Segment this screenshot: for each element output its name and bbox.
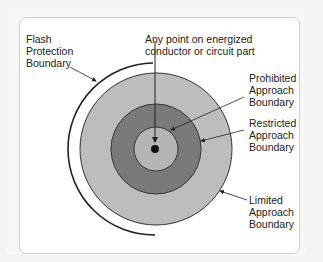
flash-leader xyxy=(70,67,96,81)
limited-leader xyxy=(220,191,247,200)
restricted-approach-label: Restricted Approach Boundary xyxy=(249,117,296,153)
flash-protection-label: Flash Protection Boundary xyxy=(26,33,73,69)
energized-point-label: Any point on energized conductor or circ… xyxy=(145,33,255,57)
limited-approach-label: Limited Approach Boundary xyxy=(249,194,294,230)
prohibited-approach-label: Prohibited Approach Boundary xyxy=(249,72,296,108)
energized-point xyxy=(151,145,159,153)
